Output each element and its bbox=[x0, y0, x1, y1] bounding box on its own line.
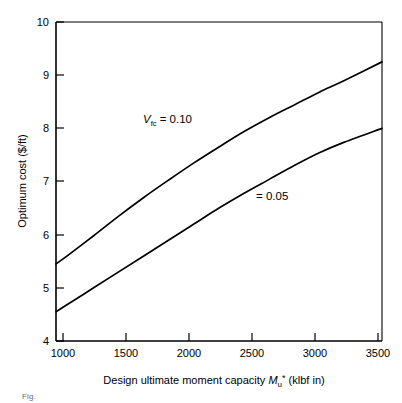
y-tick-label: 8 bbox=[43, 122, 49, 134]
x-tick-label: 1000 bbox=[51, 347, 75, 359]
plot-frame bbox=[56, 22, 382, 341]
x-tick-label: 3500 bbox=[366, 347, 390, 359]
x-tick-marks bbox=[63, 333, 378, 341]
annotation-value-010: = 0.10 bbox=[157, 113, 193, 125]
x-tick-label: 3000 bbox=[303, 347, 327, 359]
x-axis-title-prefix: Design ultimate moment capacity bbox=[103, 374, 268, 386]
y-tick-label: 6 bbox=[43, 229, 49, 241]
annotation-vfc-005: = 0.05 bbox=[256, 190, 288, 202]
y-axis-title: Optimum cost ($/ft) bbox=[16, 134, 28, 228]
y-tick-marks bbox=[56, 22, 64, 341]
x-axis-title: Design ultimate moment capacity Mu* (klb… bbox=[103, 373, 324, 389]
x-axis-title-suffix: (klbf in) bbox=[286, 374, 325, 386]
x-tick-label: 2000 bbox=[177, 347, 201, 359]
y-tick-label: 4 bbox=[43, 335, 49, 347]
x-tick-label: 1500 bbox=[114, 347, 138, 359]
y-tick-label: 7 bbox=[43, 175, 49, 187]
figure-caption: Fig. bbox=[22, 392, 36, 401]
y-tick-label: 5 bbox=[43, 282, 49, 294]
series-line-vfc-010 bbox=[56, 62, 382, 264]
y-tick-labels: 10 9 8 7 6 5 4 bbox=[37, 16, 49, 347]
y-tick-label: 10 bbox=[37, 16, 49, 28]
annotation-vfc-010: Vfc = 0.10 bbox=[143, 113, 192, 128]
x-tick-labels: 1000 1500 2000 2500 3000 3500 bbox=[51, 347, 390, 359]
x-tick-label: 2500 bbox=[240, 347, 264, 359]
series-line-vfc-005 bbox=[56, 128, 382, 311]
y-tick-label: 9 bbox=[43, 69, 49, 81]
data-series-group bbox=[56, 62, 382, 312]
figure-container: 10 9 8 7 6 5 4 1000 1500 2000 2500 3000 … bbox=[0, 0, 402, 403]
chart-canvas: 10 9 8 7 6 5 4 1000 1500 2000 2500 3000 … bbox=[0, 0, 402, 403]
